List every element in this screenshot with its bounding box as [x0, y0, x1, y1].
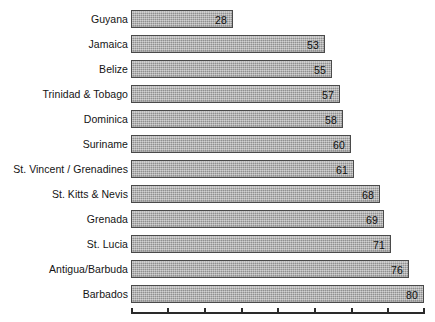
- category-label: St. Vincent / Grenadines: [13, 160, 128, 178]
- bar-row[interactable]: Trinidad & Tobago 57: [0, 85, 435, 110]
- bar-value-label: 60: [333, 136, 345, 154]
- bar[interactable]: 55: [131, 60, 332, 78]
- x-axis-tick: [314, 308, 316, 314]
- bar[interactable]: 71: [131, 235, 391, 253]
- x-axis-tick: [351, 308, 353, 314]
- bar[interactable]: 58: [131, 110, 343, 128]
- category-label: Suriname: [83, 135, 128, 153]
- bar[interactable]: 57: [131, 85, 340, 103]
- x-axis-tick: [131, 308, 133, 314]
- bar-value-label: 71: [373, 236, 385, 254]
- category-label: St. Lucia: [87, 235, 128, 253]
- category-label: St. Kitts & Nevis: [52, 185, 128, 203]
- bar-value-label: 68: [362, 186, 374, 204]
- bar-row[interactable]: Antigua/Barbuda 76: [0, 260, 435, 285]
- x-axis-tick: [387, 308, 389, 314]
- x-axis-tick: [423, 308, 425, 314]
- bar-value-label: 58: [325, 111, 337, 129]
- bar-value-label: 28: [215, 11, 227, 29]
- bar[interactable]: 76: [131, 260, 409, 278]
- bar[interactable]: 80: [131, 285, 424, 303]
- bar-value-label: 80: [406, 286, 418, 304]
- bar-value-label: 55: [314, 61, 326, 79]
- bar[interactable]: 61: [131, 160, 354, 178]
- bar[interactable]: 60: [131, 135, 351, 153]
- bar-row[interactable]: Guyana 28: [0, 10, 435, 35]
- x-axis-tick: [204, 308, 206, 314]
- category-label: Grenada: [87, 210, 128, 228]
- bar-value-label: 76: [391, 261, 403, 279]
- x-axis: [131, 312, 425, 322]
- bar[interactable]: 69: [131, 210, 384, 228]
- bar-value-label: 53: [307, 36, 319, 54]
- bar-chart-plot-area: Guyana 28 Jamaica 53 Belize 55 Trinidad …: [0, 10, 435, 312]
- bar-row[interactable]: Grenada 69: [0, 210, 435, 235]
- category-label: Trinidad & Tobago: [43, 85, 129, 103]
- category-label: Belize: [99, 60, 128, 78]
- bar-value-label: 61: [336, 161, 348, 179]
- bar[interactable]: 68: [131, 185, 380, 203]
- bar-row[interactable]: Belize 55: [0, 60, 435, 85]
- bar-row[interactable]: Jamaica 53: [0, 35, 435, 60]
- category-label: Dominica: [84, 110, 128, 128]
- bar-row[interactable]: Dominica 58: [0, 110, 435, 135]
- bar-row[interactable]: St. Kitts & Nevis 68: [0, 185, 435, 210]
- bar[interactable]: 28: [131, 10, 233, 28]
- bar-row[interactable]: St. Lucia 71: [0, 235, 435, 260]
- category-label: Antigua/Barbuda: [49, 260, 128, 278]
- bar[interactable]: 53: [131, 35, 325, 53]
- x-axis-tick: [277, 308, 279, 314]
- chart-title-clipped: [0, 0, 435, 3]
- bar-row[interactable]: St. Vincent / Grenadines 61: [0, 160, 435, 185]
- bar-row[interactable]: Barbados 80: [0, 285, 435, 310]
- x-axis-tick: [241, 308, 243, 314]
- category-label: Jamaica: [89, 35, 128, 53]
- bar-value-label: 57: [322, 86, 334, 104]
- category-label: Barbados: [83, 285, 128, 303]
- bar-row[interactable]: Suriname 60: [0, 135, 435, 160]
- category-label: Guyana: [91, 10, 128, 28]
- bar-value-label: 69: [366, 211, 378, 229]
- x-axis-tick: [167, 308, 169, 314]
